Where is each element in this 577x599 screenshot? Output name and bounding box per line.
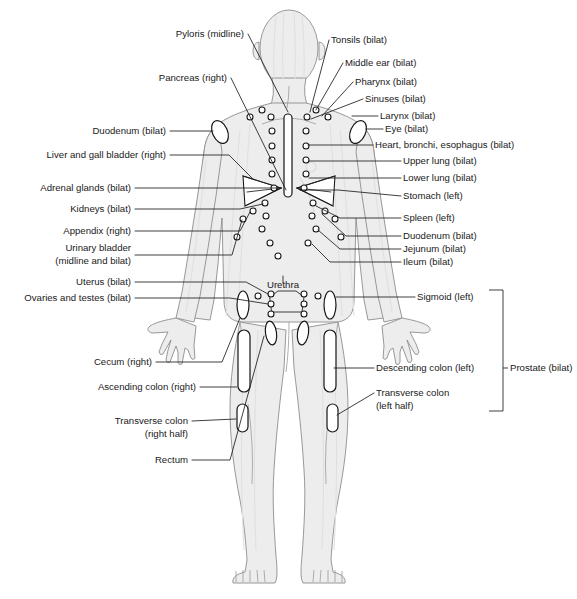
label-transverse-l2: (left half) (376, 400, 413, 411)
label-duodenum-right: Duodenum (bilat) (403, 230, 477, 241)
label-duodenum-left: Duodenum (bilat) (92, 125, 166, 136)
label-urethra: Urethra (267, 279, 300, 290)
label-heart: Heart, bronchi, esophagus (bilat) (375, 139, 514, 150)
label-transverse-l1: Transverse colon (376, 387, 449, 398)
label-stomach: Stomach (left) (403, 190, 463, 201)
label-descending: Descending colon (left) (376, 362, 474, 373)
label-sigmoid: Sigmoid (left) (417, 291, 474, 302)
label-rectum: Rectum (155, 454, 188, 465)
prostate-bracket (489, 290, 508, 411)
label-eye: Eye (bilat) (385, 123, 428, 134)
label-transverse-r2: (right half) (145, 428, 188, 439)
label-liver: Liver and gall bladder (right) (47, 149, 166, 160)
label-jejunum: Jejunum (bilat) (403, 243, 466, 254)
labels-inline-group: Urethra (267, 279, 300, 290)
label-larynx: Larynx (bilat) (380, 110, 435, 121)
label-ascending: Ascending colon (right) (98, 381, 196, 392)
ascending-colon-marker[interactable] (238, 330, 250, 392)
label-bladder-1: Urinary bladder (65, 242, 131, 253)
descending-colon-marker[interactable] (324, 330, 336, 392)
leg-left-shape (292, 322, 348, 583)
body-diagram: Pyloris (midline)Pancreas (right)Duodenu… (0, 0, 577, 599)
label-uterus: Uterus (bilat) (76, 276, 131, 287)
label-lower-lung: Lower lung (bilat) (403, 172, 477, 183)
leader-middle-ear (316, 63, 343, 110)
label-upper-lung: Upper lung (bilat) (403, 155, 477, 166)
label-pyloris: Pyloris (midline) (176, 28, 244, 39)
label-tonsils: Tonsils (bilat) (331, 34, 387, 45)
label-prostate: Prostate (bilat) (510, 362, 572, 373)
sternum-marker[interactable] (284, 114, 292, 197)
reflex-chart-root: Pyloris (midline)Pancreas (right)Duodenu… (0, 0, 577, 599)
label-appendix: Appendix (right) (63, 225, 131, 236)
label-adrenal: Adrenal glands (bilat) (40, 182, 131, 193)
label-middle-ear: Middle ear (bilat) (345, 57, 416, 68)
label-spleen: Spleen (left) (403, 212, 455, 223)
hand-right-shape (148, 318, 196, 365)
transverse-colon-left-marker[interactable] (327, 404, 338, 432)
label-pharynx: Pharynx (bilat) (355, 76, 417, 87)
hand-left-shape (382, 318, 430, 365)
leader-pharynx (322, 82, 353, 116)
label-transverse-r1: Transverse colon (115, 415, 188, 426)
sigmoid-marker[interactable] (324, 291, 336, 319)
label-ovaries: Ovaries and testes (bilat) (24, 292, 131, 303)
label-pancreas: Pancreas (right) (159, 72, 227, 83)
label-cecum: Cecum (right) (94, 356, 152, 367)
label-ileum: Ileum (bilat) (403, 256, 453, 267)
label-bladder-2: (midline and bilat) (55, 255, 131, 266)
cecum-marker[interactable] (237, 291, 249, 319)
label-kidneys: Kidneys (bilat) (70, 203, 131, 214)
leader-transverse-right (192, 419, 236, 421)
label-sinuses: Sinuses (bilat) (365, 93, 426, 104)
